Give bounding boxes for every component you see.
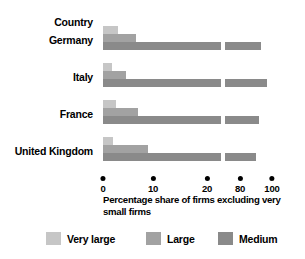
bar-italy-very-large xyxy=(103,63,112,71)
legend-swatch-medium xyxy=(218,232,233,245)
bar-chart: Country Germany Italy France United King… xyxy=(0,0,305,259)
tick-dot-icon xyxy=(204,176,209,181)
category-label-united-kingdom: United Kingdom xyxy=(15,145,93,157)
x-tick-0: 0 xyxy=(100,176,105,194)
axis-break-notch xyxy=(221,116,225,124)
value-axis-caption: Percentage share of firms excluding very… xyxy=(103,194,299,217)
legend-item-large: Large xyxy=(146,232,195,245)
tick-dot-icon xyxy=(150,176,155,181)
x-tick-label-100: 100 xyxy=(264,183,279,194)
value-axis-caption-line2: small firms xyxy=(103,206,299,218)
bar-germany-medium xyxy=(103,42,261,50)
category-label-italy: Italy xyxy=(73,71,93,83)
x-tick-100: 100 xyxy=(264,176,279,194)
legend-label-very-large: Very large xyxy=(67,233,115,245)
x-tick-20: 20 xyxy=(202,176,212,194)
bar-united-kingdom-large xyxy=(103,145,148,153)
legend: Very large Large Medium xyxy=(46,232,291,248)
x-tick-10: 10 xyxy=(148,176,158,194)
bar-germany-large xyxy=(103,34,136,42)
legend-label-large: Large xyxy=(167,233,195,245)
category-label-france: France xyxy=(60,108,93,120)
legend-swatch-large xyxy=(146,232,161,245)
legend-item-medium: Medium xyxy=(218,232,277,245)
legend-item-very-large: Very large xyxy=(46,232,115,245)
bar-united-kingdom-medium xyxy=(103,153,256,161)
tick-dot-icon xyxy=(237,176,242,181)
x-tick-80: 80 xyxy=(235,176,245,194)
bar-united-kingdom-very-large xyxy=(103,137,113,145)
axis-break-notch xyxy=(221,79,225,87)
bar-italy-medium xyxy=(103,79,267,87)
tick-dot-icon xyxy=(269,176,274,181)
bar-france-large xyxy=(103,108,138,116)
legend-label-medium: Medium xyxy=(239,233,277,245)
x-tick-label-10: 10 xyxy=(148,183,158,194)
plot-area xyxy=(103,16,275,176)
category-axis-labels: Country Germany Italy France United King… xyxy=(0,0,99,200)
x-tick-label-80: 80 xyxy=(235,183,245,194)
x-tick-label-0: 0 xyxy=(100,183,105,194)
axis-break-notch xyxy=(221,42,225,50)
bar-italy-large xyxy=(103,71,126,79)
bar-france-medium xyxy=(103,116,259,124)
category-label-germany: Germany xyxy=(49,34,93,46)
bar-germany-very-large xyxy=(103,26,118,34)
x-tick-label-20: 20 xyxy=(202,183,212,194)
value-axis-caption-line1: Percentage share of firms excluding very xyxy=(103,194,299,206)
legend-swatch-very-large xyxy=(46,232,61,245)
tick-dot-icon xyxy=(101,176,106,181)
axis-break-notch xyxy=(221,153,225,161)
bar-france-very-large xyxy=(103,100,116,108)
category-axis-header: Country xyxy=(54,16,93,28)
